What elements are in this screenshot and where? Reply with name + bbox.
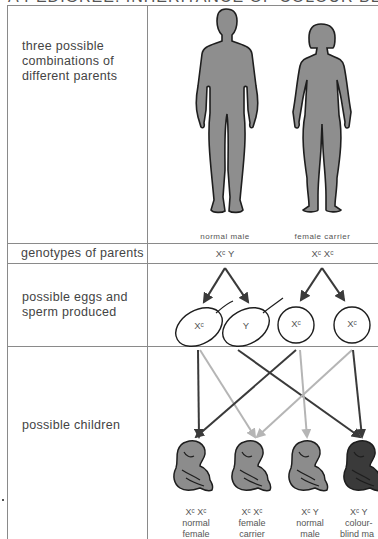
child-desc-1: normal	[286, 518, 334, 529]
child-genotype: Xᶜ Xᶜ	[172, 507, 220, 518]
child-female-carrier-icon	[232, 441, 271, 491]
diagram-graphics	[0, 0, 378, 539]
child-colour-blind-male-icon	[344, 441, 378, 491]
parent-genotype-female: Xᶜ Xᶜ	[295, 248, 350, 259]
female-figure-icon	[293, 24, 351, 212]
parent-caption-female: female carrier	[285, 232, 360, 241]
child-desc-2: male	[286, 529, 334, 539]
child-normal-female-icon	[174, 441, 213, 491]
parent-genotype-male: Xᶜ Y	[200, 248, 250, 259]
gamete-label-4: Xᶜ	[338, 318, 366, 329]
child-label-2: Xᶜ Xᶜ female carrier	[228, 507, 276, 539]
child-desc-2: blind ma	[340, 529, 378, 539]
child-normal-male-icon	[289, 441, 328, 491]
parent-caption-male: normal male	[190, 232, 260, 241]
gamete-label-3: Xᶜ	[282, 318, 310, 329]
child-desc-1: normal	[172, 518, 220, 529]
child-desc-1: colour-	[340, 518, 378, 529]
child-genotype: Xᶜ Y	[286, 507, 334, 518]
child-label-4: Xᶜ Y colour- blind ma	[340, 507, 378, 539]
child-desc-1: female	[228, 518, 276, 529]
child-desc-2: carrier	[228, 529, 276, 539]
gamete-arrows	[204, 268, 344, 302]
male-figure-icon	[196, 9, 258, 212]
fertilisation-arrows	[196, 350, 362, 437]
child-desc-2: female	[172, 529, 220, 539]
gamete-label-2: Y	[232, 320, 260, 331]
child-label-1: Xᶜ Xᶜ normal female	[172, 507, 220, 539]
gamete-label-1: Xᶜ	[185, 320, 213, 331]
child-genotype: Xᶜ Y	[340, 507, 378, 518]
child-label-3: Xᶜ Y normal male	[286, 507, 334, 539]
child-genotype: Xᶜ Xᶜ	[228, 507, 276, 518]
